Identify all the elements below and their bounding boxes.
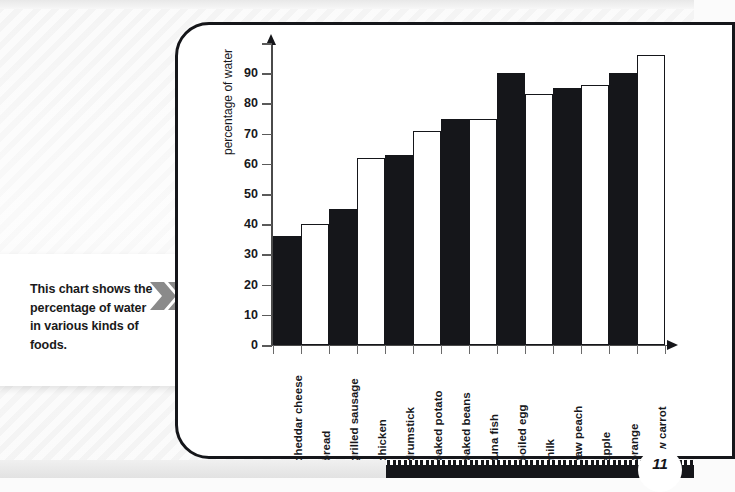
footer-left-shading (0, 460, 386, 478)
page-number: 11 (644, 455, 676, 472)
chart-panel (175, 22, 735, 459)
caption-text: This chart shows the percentage of water… (30, 280, 158, 354)
caption-inner: This chart shows the percentage of water… (30, 280, 158, 354)
page-top-edge (0, 0, 694, 9)
